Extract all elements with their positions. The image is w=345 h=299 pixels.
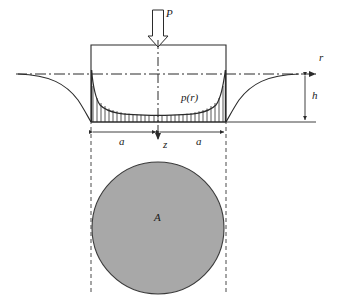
settlement-label: h [312,90,318,101]
radial-axis-label: r [319,52,323,63]
pressure-label: p(r) [181,92,198,103]
radius-label-right: a [196,136,202,147]
settlement-curve-left [18,74,91,122]
radius-label-left: a [119,136,125,147]
figure-canvas [0,0,345,299]
settlement-dimension-group [226,74,316,122]
punch-pressure-figure: P r h p(r) a a z A [0,0,345,299]
contact-area-label: A [154,212,161,223]
contact-area-circle [92,162,224,294]
settlement-curve-right [226,74,299,122]
depth-axis-label: z [163,139,167,150]
load-label: P [166,8,173,19]
contact-area-group [92,162,224,294]
